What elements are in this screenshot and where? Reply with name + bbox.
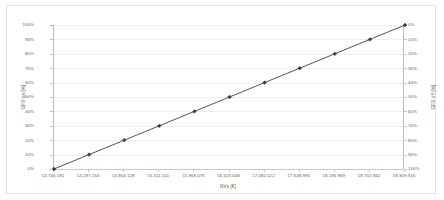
x-axis-tick-mark	[404, 169, 405, 172]
y-axis-left-tick-label: 100%	[0, 22, 34, 27]
y-axis-left-tick-label: 70%	[0, 66, 34, 71]
data-point-marker	[368, 38, 372, 42]
y-axis-left-tick-label: 20%	[0, 138, 34, 143]
x-axis-tick-mark	[88, 169, 89, 172]
y-axis-right-tick-label: 50%	[408, 94, 442, 99]
y-axis-right-tick-label: 20%	[408, 51, 442, 56]
y-axis-right-tick-label: 70%	[408, 123, 442, 128]
y-axis-left-tick-label: 40%	[0, 109, 34, 114]
data-point-marker	[228, 95, 232, 99]
data-point-marker	[263, 81, 267, 85]
x-axis-tick-mark	[229, 169, 230, 172]
series-line-gfs-on	[54, 25, 405, 169]
x-axis-tick-mark	[369, 169, 370, 172]
y-axis-right-tick-label: 100%	[408, 166, 442, 171]
y-axis-right-tick-label: 90%	[408, 152, 442, 157]
x-axis-title: NVs [€]	[220, 184, 236, 189]
plot-area	[53, 25, 404, 169]
data-point-marker	[403, 23, 407, 27]
x-axis-tick-mark	[299, 169, 300, 172]
y-axis-right-tick-label: 10%	[408, 37, 442, 42]
x-axis-tick-mark	[334, 169, 335, 172]
y-axis-right-tick-label: 80%	[408, 138, 442, 143]
data-point-marker	[193, 110, 197, 114]
x-axis-tick-mark	[193, 169, 194, 172]
y-axis-right-tick-label: 40%	[408, 80, 442, 85]
y-axis-left-tick-label: 80%	[0, 51, 34, 56]
x-axis-tick-label: €9.309.916	[372, 173, 436, 178]
x-axis-tick-mark	[264, 169, 265, 172]
data-point-marker	[157, 124, 161, 128]
y-axis-right-tick-label: 30%	[408, 66, 442, 71]
data-point-marker	[87, 153, 91, 157]
data-point-marker	[333, 52, 337, 56]
y-axis-left-tick-label: 30%	[0, 123, 34, 128]
y-axis-left-tick-label: 0%	[0, 166, 34, 171]
y-axis-left-tick-label: 60%	[0, 80, 34, 85]
x-axis-tick-mark	[158, 169, 159, 172]
chart-frame: GFS on [%] GFS off [%] NVs [€] 100%90%80…	[6, 5, 436, 194]
x-axis-tick-mark	[123, 169, 124, 172]
y-axis-right-tick-label: 0%	[408, 22, 442, 27]
y-axis-left-tick-label: 90%	[0, 37, 34, 42]
data-point-marker	[122, 138, 126, 142]
y-axis-right-tick-label: 60%	[408, 109, 442, 114]
y-axis-left-tick-label: 10%	[0, 152, 34, 157]
data-point-marker	[298, 66, 302, 70]
y-axis-left-tick-label: 50%	[0, 94, 34, 99]
